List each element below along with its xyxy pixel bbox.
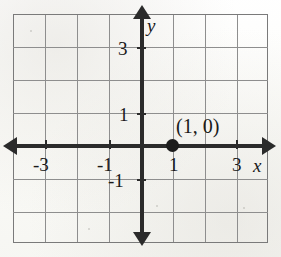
- x-tick-label-3: 3: [232, 155, 242, 174]
- x-axis-left-arrow-icon: [3, 137, 17, 155]
- x-axis-tick: [45, 140, 47, 149]
- x-axis-right-arrow-icon: [262, 137, 276, 155]
- y-axis-tick: [137, 47, 146, 49]
- x-tick-label-1: 1: [169, 155, 179, 174]
- x-tick-label-neg3: -3: [33, 155, 49, 174]
- x-axis-tick: [109, 140, 111, 149]
- y-tick-label-1: 1: [119, 105, 129, 124]
- coordinate-plane-figure: -3 -1 1 3 3 1 -1 y x (1, 0): [0, 0, 281, 257]
- x-axis-tick: [236, 140, 238, 149]
- plotted-point-marker: [166, 139, 179, 152]
- y-axis-label: y: [147, 16, 155, 35]
- y-tick-label-3: 3: [118, 39, 128, 58]
- y-axis-tick: [137, 113, 146, 115]
- y-axis-tick: [137, 179, 146, 181]
- point-coordinate-label: (1, 0): [176, 116, 219, 136]
- y-axis-line: [140, 10, 144, 241]
- y-axis-down-arrow-icon: [133, 232, 151, 246]
- x-axis-label: x: [253, 156, 261, 175]
- y-tick-label-neg1: -1: [108, 171, 124, 190]
